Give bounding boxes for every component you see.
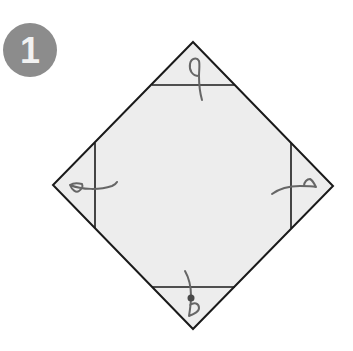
bottom-pivot-dot [188,295,195,302]
origami-diagram [0,0,353,351]
